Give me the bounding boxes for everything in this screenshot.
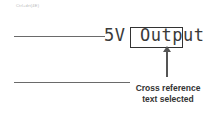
figure-caption: Ctrl+drt(4E) bbox=[16, 3, 39, 8]
wire-top bbox=[14, 36, 105, 37]
annotation-line-2: text selected bbox=[128, 94, 208, 105]
wire-bottom bbox=[14, 82, 130, 83]
annotation-line-1: Cross reference bbox=[128, 83, 208, 94]
selection-box bbox=[130, 27, 183, 48]
annotation-text: Cross reference text selected bbox=[128, 83, 208, 105]
arrow-shaft bbox=[166, 50, 168, 77]
net-label-5v: 5V bbox=[104, 25, 125, 45]
